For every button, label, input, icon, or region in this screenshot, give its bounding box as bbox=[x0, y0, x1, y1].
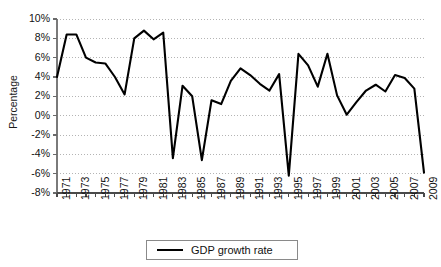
x-tick-label: 1993 bbox=[273, 177, 283, 200]
legend-line-swatch bbox=[157, 249, 183, 251]
x-tick-label: 1997 bbox=[312, 177, 322, 200]
x-tick-label: 1991 bbox=[254, 177, 264, 200]
x-tick-label: 1989 bbox=[235, 177, 245, 200]
x-tick-label: 1985 bbox=[196, 177, 206, 200]
x-tick-label: 1977 bbox=[119, 177, 129, 200]
x-tick-label: 1995 bbox=[293, 177, 303, 200]
x-tick-label: 1981 bbox=[158, 177, 168, 200]
x-tick-label: 2009 bbox=[428, 177, 438, 200]
legend-label-gdp-growth-rate: GDP growth rate bbox=[191, 244, 273, 256]
legend: GDP growth rate bbox=[146, 240, 298, 260]
x-tick-label: 2007 bbox=[409, 177, 419, 200]
x-tick-label: 1979 bbox=[138, 177, 148, 200]
x-tick-label: 1971 bbox=[61, 177, 71, 200]
x-tick-label: 1987 bbox=[216, 177, 226, 200]
x-tick-label: 2003 bbox=[370, 177, 380, 200]
x-tick-label: 1983 bbox=[177, 177, 187, 200]
x-tick-label: 2005 bbox=[389, 177, 399, 200]
x-tick-label: 2001 bbox=[351, 177, 361, 200]
x-tick-label: 1999 bbox=[331, 177, 341, 200]
x-tick-label: 1973 bbox=[80, 177, 90, 200]
gdp-growth-rate-chart: Percentage 10%8%6%4%2%0%-2%-4%-6%-8% 197… bbox=[0, 0, 441, 267]
x-axis-tick-labels: 1971197319751977197919811983198519871989… bbox=[0, 0, 441, 267]
x-tick-label: 1975 bbox=[100, 177, 110, 200]
